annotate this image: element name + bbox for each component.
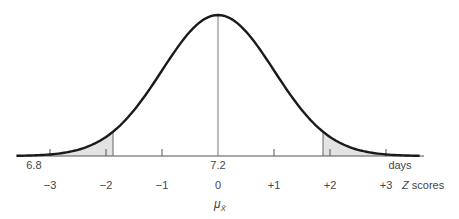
z-scores-axis-label: Z scores xyxy=(402,179,444,191)
z-symbol: Z xyxy=(402,179,409,191)
z-label: +3 xyxy=(380,179,393,191)
z-label: −2 xyxy=(100,179,113,191)
z-label: −3 xyxy=(44,179,57,191)
day-label-6-8: 6.8 xyxy=(26,159,41,171)
z-label: −1 xyxy=(156,179,169,191)
z-label: 0 xyxy=(215,179,221,191)
z-label: +2 xyxy=(324,179,337,191)
z-label: +1 xyxy=(268,179,281,191)
z-scores-text: scores xyxy=(409,179,444,191)
x-bar-subscript: X̄ xyxy=(221,204,226,213)
day-label-7-2: 7.2 xyxy=(210,159,225,171)
days-unit-label: days xyxy=(388,159,411,171)
mu-x-bar-label: μX̄ xyxy=(214,197,226,213)
